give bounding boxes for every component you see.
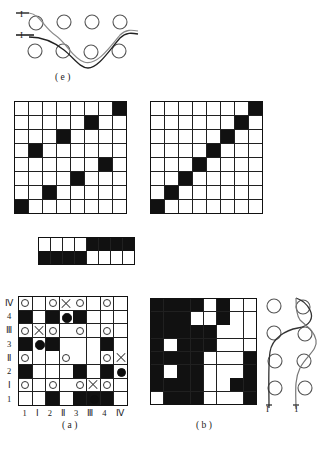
circle-marker-icon xyxy=(73,297,86,310)
grid-cell xyxy=(165,200,178,213)
grid-cell xyxy=(71,158,84,171)
lattice-circle xyxy=(28,44,42,58)
grid-cell xyxy=(204,378,216,390)
grid-cell xyxy=(165,116,178,129)
grid-cell xyxy=(71,186,84,199)
grid-cell xyxy=(151,186,164,199)
grid-cell xyxy=(39,238,50,251)
grid-cell xyxy=(207,186,220,199)
grid-cell xyxy=(87,251,98,264)
grid-cell xyxy=(43,144,56,157)
grid-cell xyxy=(101,324,114,337)
panel-a-xtick-7: 4 xyxy=(102,409,106,418)
grid-cell xyxy=(244,339,256,351)
grid-cell xyxy=(165,102,178,115)
grid-cell xyxy=(15,172,28,185)
grid-cell xyxy=(204,365,216,377)
panel-a: Ⅳ4Ⅲ3Ⅱ2Ⅰ1 1Ⅰ2Ⅱ3Ⅲ4Ⅳ xyxy=(0,292,140,420)
grid-cell xyxy=(221,144,234,157)
grid-cell xyxy=(217,325,229,337)
grid-cell xyxy=(99,200,112,213)
circle-marker-icon xyxy=(60,351,73,364)
grid-cell xyxy=(230,352,242,364)
grid-cell xyxy=(151,158,164,171)
grid-cell xyxy=(244,365,256,377)
grid-cell xyxy=(193,172,206,185)
grid-cell xyxy=(71,116,84,129)
panel-a-xtick-1: 1 xyxy=(23,409,27,418)
lattice-circle xyxy=(268,381,282,395)
panel-a-ytick-5: Ⅱ xyxy=(7,354,11,363)
grid-cell xyxy=(57,102,70,115)
grid-cell xyxy=(33,379,46,392)
grid-cell xyxy=(73,297,86,310)
lattice-circle xyxy=(57,15,71,29)
grid-cell xyxy=(85,144,98,157)
grid-cell xyxy=(235,172,248,185)
circle-marker-icon xyxy=(73,379,86,392)
grid-cell xyxy=(123,238,134,251)
grid-cell xyxy=(179,130,192,143)
grid-cell xyxy=(244,392,256,404)
grid-cell xyxy=(43,200,56,213)
grid-cell xyxy=(113,144,126,157)
grid-cell xyxy=(165,144,178,157)
grid-cell xyxy=(73,324,86,337)
grid-cell xyxy=(15,186,28,199)
grid-cell xyxy=(230,378,242,390)
grid-cell xyxy=(179,116,192,129)
grid-cell xyxy=(87,311,100,324)
grid-cell xyxy=(73,311,86,324)
grid-cell xyxy=(99,116,112,129)
dot-marker-icon xyxy=(114,365,127,378)
grid-cell xyxy=(29,158,42,171)
grid-cell xyxy=(85,102,98,115)
caption-e: ( e ) xyxy=(55,72,70,82)
grid-cell xyxy=(87,297,100,310)
grid-cell xyxy=(114,392,127,405)
grid-cell xyxy=(151,144,164,157)
grid-cell xyxy=(19,338,32,351)
circle-marker-icon xyxy=(19,379,32,392)
grid-cell xyxy=(57,186,70,199)
grid-cell xyxy=(207,102,220,115)
grid-cell xyxy=(99,158,112,171)
grid-cell xyxy=(19,379,32,392)
slip-line-upper xyxy=(29,13,138,63)
grid-cell xyxy=(230,325,242,337)
grid-cell xyxy=(99,102,112,115)
x-marker-icon xyxy=(87,379,100,392)
panel-e-label-I-lower: I xyxy=(20,30,23,40)
grid-cell xyxy=(207,130,220,143)
grid-cell xyxy=(217,352,229,364)
grid-cell xyxy=(101,392,114,405)
grid-cell xyxy=(60,311,73,324)
grid-cell xyxy=(164,312,176,324)
grid-cell xyxy=(165,186,178,199)
grid-cell xyxy=(87,338,100,351)
grid-cell xyxy=(151,378,163,390)
grid-cell xyxy=(29,102,42,115)
grid-cell xyxy=(113,186,126,199)
panel-a-xtick-2: Ⅰ xyxy=(36,409,39,418)
grid-cell xyxy=(177,339,189,351)
x-marker-icon xyxy=(114,351,127,364)
grid-cell xyxy=(15,200,28,213)
grid-cell xyxy=(165,130,178,143)
grid-cell xyxy=(207,200,220,213)
grid-cell xyxy=(193,116,206,129)
grid-cell xyxy=(177,312,189,324)
panel-a-xtick-8: Ⅳ xyxy=(116,409,124,418)
grid-cell xyxy=(33,338,46,351)
grid-cell xyxy=(204,312,216,324)
grid-cell xyxy=(204,339,216,351)
grid-cell xyxy=(29,200,42,213)
grid-cell xyxy=(51,238,62,251)
grid-cell xyxy=(164,392,176,404)
panel-a-ytick-7: Ⅰ xyxy=(8,381,11,390)
grid-cell xyxy=(33,392,46,405)
grid-cell xyxy=(151,130,164,143)
panel-e-label-I-upper: I xyxy=(20,9,23,19)
grid-cell xyxy=(73,365,86,378)
grid-cell xyxy=(19,297,32,310)
